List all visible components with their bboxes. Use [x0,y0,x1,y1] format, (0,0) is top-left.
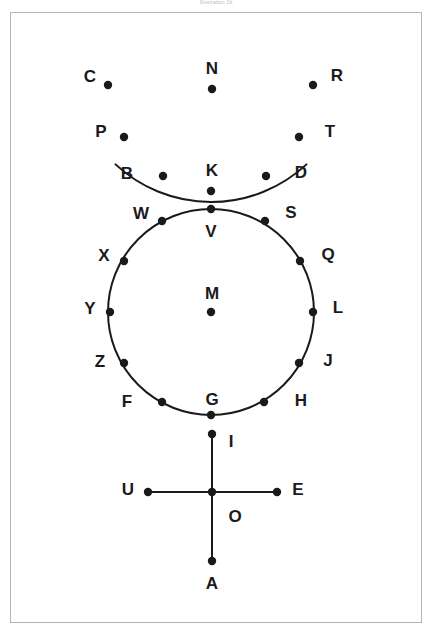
point-label-u: U [122,481,134,498]
point-dot-q [296,257,304,265]
point-label-q: Q [321,246,334,263]
point-dot-w [158,217,166,225]
point-label-h: H [295,392,307,409]
diagram-canvas [0,0,432,635]
point-dot-m [207,308,215,316]
point-label-x: X [98,247,109,264]
point-label-j: J [323,352,332,369]
point-dot-i [208,430,216,438]
point-label-r: R [331,67,343,84]
point-dot-j [295,359,303,367]
diagram-stage: Illustration 1b CPBKDTRNVWXYZFGHJLQSMIUO… [0,0,432,635]
point-dot-s [261,217,269,225]
point-label-l: L [333,299,343,316]
point-dot-b [159,172,167,180]
point-label-z: Z [95,353,105,370]
point-dot-v [207,205,215,213]
point-label-o: O [228,508,241,525]
point-label-e: E [292,481,303,498]
point-dot-p [120,133,128,141]
point-label-w: W [133,205,149,222]
point-label-t: T [325,123,335,140]
point-dot-e [273,488,281,496]
point-label-d: D [295,164,307,181]
point-dot-n [208,85,216,93]
point-dot-o [208,488,216,496]
point-label-v: V [205,223,216,240]
point-dot-h [260,398,268,406]
diagram-dots [104,81,317,565]
point-dot-k [207,187,215,195]
point-dot-a [208,557,216,565]
point-label-n: N [206,60,218,77]
point-label-k: K [206,162,218,179]
point-dot-c [104,81,112,89]
point-label-b: B [121,165,133,182]
point-label-f: F [122,393,132,410]
point-label-g: G [205,391,218,408]
point-label-p: P [95,123,106,140]
point-dot-x [120,257,128,265]
point-label-a: A [206,575,218,592]
point-dot-u [144,488,152,496]
point-dot-f [158,398,166,406]
point-label-i: I [229,433,234,450]
point-label-y: Y [84,300,95,317]
point-dot-z [120,359,128,367]
point-label-m: M [205,285,219,302]
point-label-c: C [84,68,96,85]
point-dot-t [295,133,303,141]
point-dot-d [262,172,270,180]
point-dot-y [106,308,114,316]
point-dot-r [309,81,317,89]
point-dot-l [309,308,317,316]
point-dot-g [207,411,215,419]
point-label-s: S [285,204,296,221]
